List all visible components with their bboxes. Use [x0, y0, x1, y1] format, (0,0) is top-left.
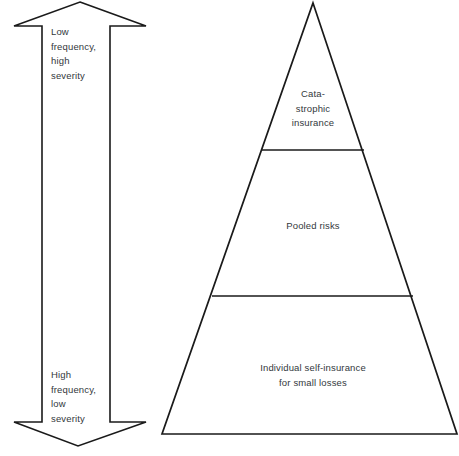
pyramid-tier-label-catastrophic-insurance: Cata- strophic insurance — [292, 87, 335, 131]
arrow-bottom-label: High frequency, low severity — [51, 368, 96, 426]
pyramid-tier-label-individual-self-insurance: Individual self-insurance for small loss… — [260, 361, 366, 390]
pyramid-tier-label-pooled-risks: Pooled risks — [286, 219, 340, 234]
arrow-top-label: Low frequency, high severity — [51, 25, 96, 83]
risk-pyramid-figure: Low frequency, high severity High freque… — [0, 0, 459, 456]
